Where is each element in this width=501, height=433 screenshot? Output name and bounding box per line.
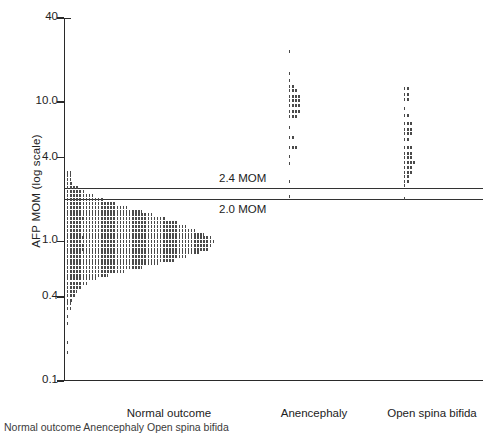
data-dot-row bbox=[67, 229, 195, 232]
data-dot-row bbox=[404, 132, 413, 135]
data-dot-row bbox=[67, 221, 179, 224]
y-tick-label: 1.0 bbox=[12, 233, 58, 245]
data-dot-row bbox=[67, 217, 166, 220]
data-dot-row bbox=[67, 182, 73, 185]
data-dot-row bbox=[67, 341, 69, 344]
data-dot-row bbox=[67, 190, 86, 193]
data-dot-row bbox=[289, 126, 292, 129]
data-dot-row bbox=[404, 175, 410, 178]
data-dot-row bbox=[289, 180, 292, 183]
figure-caption: Normal outcome Anencephaly Open spina bi… bbox=[4, 421, 229, 433]
reference-line-label: 2.4 MOM bbox=[219, 172, 266, 184]
data-dot-row bbox=[404, 98, 410, 101]
data-dot-row bbox=[404, 184, 407, 187]
y-tick-mark bbox=[57, 296, 64, 297]
data-dot-row bbox=[289, 136, 295, 139]
data-dot-row bbox=[67, 251, 199, 254]
y-axis-title: AFP MOM (log scale) bbox=[30, 86, 42, 296]
data-dot-row bbox=[289, 50, 292, 53]
y-tick-label: 40 bbox=[12, 10, 58, 22]
data-dot-row bbox=[289, 79, 292, 82]
data-dot-row bbox=[67, 186, 79, 189]
data-dot-row bbox=[67, 270, 125, 273]
x-axis-line bbox=[64, 380, 483, 381]
data-dot-row bbox=[67, 206, 129, 209]
data-dot-row bbox=[67, 213, 154, 216]
group-label-anencephaly: Anencephaly bbox=[281, 407, 348, 419]
data-dot-row bbox=[289, 115, 298, 118]
data-dot-row bbox=[404, 197, 407, 200]
data-dot-row bbox=[67, 202, 117, 205]
y-tick-mark bbox=[57, 157, 64, 158]
data-dot-row bbox=[404, 138, 410, 141]
data-dot-row bbox=[404, 156, 413, 159]
data-dot-row bbox=[404, 161, 416, 164]
data-dot-row bbox=[67, 294, 75, 297]
y-tick-mark bbox=[57, 101, 64, 102]
data-dot-row bbox=[67, 322, 69, 325]
data-dot-row bbox=[67, 194, 94, 197]
plot-area: 4010.04.01.00.40.1 2.4 MOM2.0 MOM Normal… bbox=[64, 18, 483, 381]
data-dot-row bbox=[404, 87, 410, 90]
data-dot-row bbox=[289, 89, 298, 92]
data-dot-row bbox=[67, 351, 69, 354]
data-dot-row bbox=[289, 146, 298, 149]
data-dot-row bbox=[404, 93, 410, 96]
reference-line-2-0-mom bbox=[64, 199, 483, 200]
y-tick-mark bbox=[57, 17, 64, 18]
reference-line-2-4-mom bbox=[64, 188, 483, 189]
data-dot-row bbox=[67, 210, 142, 213]
reference-line-label: 2.0 MOM bbox=[219, 203, 266, 215]
data-dot-row bbox=[404, 128, 413, 131]
y-tick-label: 0.4 bbox=[12, 289, 58, 301]
data-dot-row bbox=[67, 282, 88, 285]
data-dot-row bbox=[404, 122, 413, 125]
data-dot-row bbox=[404, 152, 413, 155]
data-dot-row bbox=[67, 178, 71, 181]
data-dot-row bbox=[289, 85, 295, 88]
data-dot-row bbox=[67, 255, 187, 258]
data-dot-row bbox=[67, 266, 142, 269]
data-dot-row bbox=[67, 315, 69, 318]
data-dot-row bbox=[404, 171, 413, 174]
data-dot-row bbox=[67, 290, 77, 293]
group-label-normal-outcome: Normal outcome bbox=[127, 407, 211, 419]
data-dot-row bbox=[67, 277, 96, 280]
data-dot-row bbox=[67, 198, 104, 201]
y-tick-label: 0.1 bbox=[12, 373, 58, 385]
data-dot-row bbox=[67, 244, 212, 247]
data-dot-row bbox=[289, 195, 292, 198]
data-dot-row bbox=[404, 180, 410, 183]
data-dot-row bbox=[289, 155, 292, 158]
y-axis-top-cap bbox=[64, 18, 71, 19]
data-dot-row bbox=[404, 146, 413, 149]
y-tick-mark bbox=[57, 241, 64, 242]
data-dot-row bbox=[289, 72, 292, 75]
data-dot-row bbox=[67, 307, 71, 310]
data-dot-row bbox=[404, 114, 410, 117]
data-dot-row bbox=[67, 233, 204, 236]
data-dot-row bbox=[289, 162, 292, 165]
data-dot-row bbox=[404, 166, 413, 169]
data-dot-row bbox=[67, 262, 158, 265]
group-label-open-spina-bifida: Open spina bifida bbox=[387, 407, 477, 419]
data-dot-row bbox=[67, 302, 71, 305]
data-dot-row bbox=[67, 240, 216, 243]
y-tick-label: 4.0 bbox=[12, 150, 58, 162]
data-dot-row bbox=[67, 248, 208, 251]
data-dot-row bbox=[289, 110, 301, 113]
data-dot-row bbox=[289, 95, 301, 98]
data-dot-row bbox=[289, 99, 301, 102]
data-dot-row bbox=[67, 286, 81, 289]
data-dot-row bbox=[67, 225, 187, 228]
data-dot-row bbox=[289, 104, 301, 107]
data-dot-row bbox=[404, 107, 407, 110]
y-tick-label: 10.0 bbox=[12, 94, 58, 106]
y-tick-mark bbox=[57, 380, 64, 381]
